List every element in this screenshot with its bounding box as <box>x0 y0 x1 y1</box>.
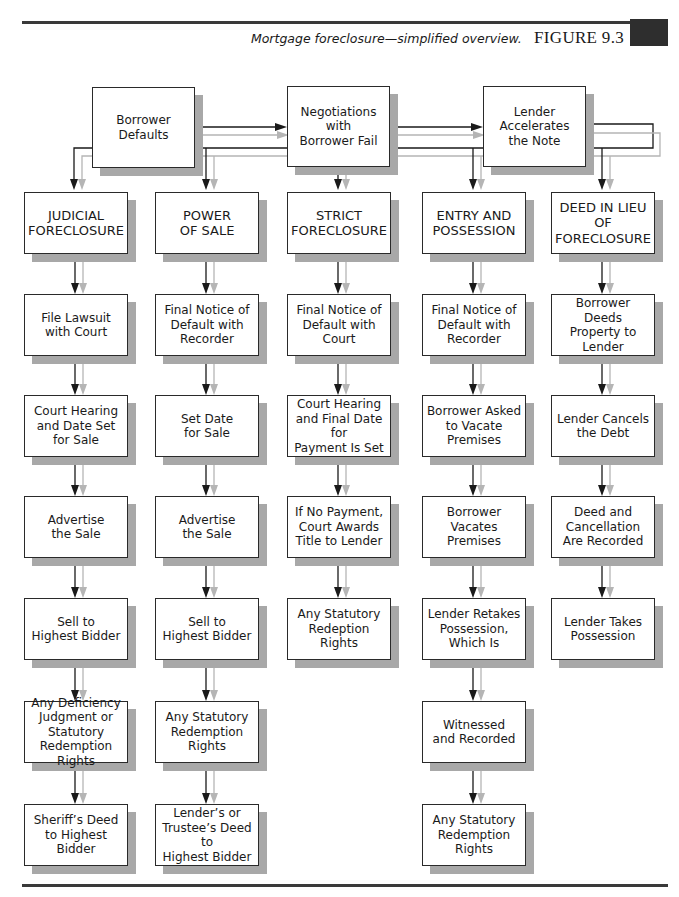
judicial-foreclosure-step-1: File Lawsuit with Court <box>24 294 128 356</box>
box-negotiations-fail-label: Negotiations with Borrower Fail <box>291 105 386 149</box>
strict-foreclosure-step-2-label: Court Hearing and Final Date for Payment… <box>291 397 387 455</box>
entry-and-possession-step-3: Borrower Vacates Premises <box>422 496 526 558</box>
heading-deed-in-lieu: DEED IN LIEU OF FORECLOSURE <box>551 192 655 254</box>
strict-foreclosure-step-1: Final Notice of Default with Court <box>287 294 391 356</box>
entry-and-possession-step-6-label: Any Statutory Redemption Rights <box>433 813 516 857</box>
judicial-foreclosure-step-4: Sell to Highest Bidder <box>24 598 128 660</box>
judicial-foreclosure-step-3: Advertise the Sale <box>24 496 128 558</box>
deed-in-lieu-step-3: Deed and Cancellation Are Recorded <box>551 496 655 558</box>
entry-and-possession-step-6: Any Statutory Redemption Rights <box>422 804 526 866</box>
entry-and-possession-step-2: Borrower Asked to Vacate Premises <box>422 395 526 457</box>
judicial-foreclosure-step-4-label: Sell to Highest Bidder <box>32 615 121 644</box>
entry-and-possession-step-1: Final Notice of Default with Recorder <box>422 294 526 356</box>
entry-and-possession-step-4-label: Lender Retakes Possession, Which Is <box>428 607 521 651</box>
power-of-sale-step-3-label: Advertise the Sale <box>179 513 236 542</box>
bottom-rule <box>22 884 668 887</box>
entry-and-possession-step-5: Witnessed and Recorded <box>422 701 526 763</box>
box-lender-accelerates: Lender Accelerates the Note <box>483 86 586 167</box>
power-of-sale-step-1-label: Final Notice of Default with Recorder <box>164 303 249 347</box>
strict-foreclosure-step-4: Any Statutory Redeption Rights <box>287 598 391 660</box>
deed-in-lieu-step-4: Lender Takes Possession <box>551 598 655 660</box>
strict-foreclosure-step-4-label: Any Statutory Redeption Rights <box>291 607 387 651</box>
box-borrower-defaults: Borrower Defaults <box>92 87 195 168</box>
judicial-foreclosure-step-3-label: Advertise the Sale <box>48 513 105 542</box>
heading-deed-in-lieu-label: DEED IN LIEU OF FORECLOSURE <box>555 200 651 247</box>
power-of-sale-step-5-label: Any Statutory Redemption Rights <box>166 710 249 754</box>
judicial-foreclosure-step-5: Any Deficiency Judgment or Statutory Red… <box>24 701 128 763</box>
strict-foreclosure-step-1-label: Final Notice of Default with Court <box>296 303 381 347</box>
strict-foreclosure-step-3-label: If No Payment, Court Awards Title to Len… <box>295 505 383 549</box>
box-lender-accelerates-label: Lender Accelerates the Note <box>500 105 570 149</box>
power-of-sale-step-6-label: Lender’s or Trustee’s Deed to Highest Bi… <box>159 806 255 864</box>
judicial-foreclosure-step-2: Court Hearing and Date Set for Sale <box>24 395 128 457</box>
power-of-sale-step-4-label: Sell to Highest Bidder <box>163 615 252 644</box>
judicial-foreclosure-step-2-label: Court Hearing and Date Set for Sale <box>34 404 118 448</box>
judicial-foreclosure-step-6-label: Sheriff’s Deed to Highest Bidder <box>34 813 119 857</box>
entry-and-possession-step-2-label: Borrower Asked to Vacate Premises <box>427 404 521 448</box>
power-of-sale-step-3: Advertise the Sale <box>155 496 259 558</box>
heading-judicial-foreclosure: JUDICIAL FORECLOSURE <box>24 192 128 254</box>
heading-entry-and-possession: ENTRY AND POSSESSION <box>422 192 526 254</box>
entry-and-possession-step-1-label: Final Notice of Default with Recorder <box>431 303 516 347</box>
heading-strict-foreclosure-label: STRICT FORECLOSURE <box>291 208 387 239</box>
deed-in-lieu-step-2: Lender Cancels the Debt <box>551 395 655 457</box>
heading-power-of-sale: POWER OF SALE <box>155 192 259 254</box>
power-of-sale-step-4: Sell to Highest Bidder <box>155 598 259 660</box>
heading-judicial-foreclosure-label: JUDICIAL FORECLOSURE <box>28 208 124 239</box>
box-negotiations-fail: Negotiations with Borrower Fail <box>287 86 390 167</box>
judicial-foreclosure-step-1-label: File Lawsuit with Court <box>41 311 111 340</box>
power-of-sale-step-1: Final Notice of Default with Recorder <box>155 294 259 356</box>
heading-power-of-sale-label: POWER OF SALE <box>180 208 235 239</box>
entry-and-possession-step-4: Lender Retakes Possession, Which Is <box>422 598 526 660</box>
power-of-sale-step-2-label: Set Date for Sale <box>181 412 233 441</box>
power-of-sale-step-5: Any Statutory Redemption Rights <box>155 701 259 763</box>
strict-foreclosure-step-3: If No Payment, Court Awards Title to Len… <box>287 496 391 558</box>
heading-strict-foreclosure: STRICT FORECLOSURE <box>287 192 391 254</box>
entry-and-possession-step-3-label: Borrower Vacates Premises <box>426 505 522 549</box>
judicial-foreclosure-step-6: Sheriff’s Deed to Highest Bidder <box>24 804 128 866</box>
deed-in-lieu-step-4-label: Lender Takes Possession <box>564 615 642 644</box>
deed-in-lieu-step-1-label: Borrower Deeds Property to Lender <box>555 296 651 354</box>
deed-in-lieu-step-3-label: Deed and Cancellation Are Recorded <box>563 505 644 549</box>
deed-in-lieu-step-1: Borrower Deeds Property to Lender <box>551 294 655 356</box>
strict-foreclosure-step-2: Court Hearing and Final Date for Payment… <box>287 395 391 457</box>
power-of-sale-step-6: Lender’s or Trustee’s Deed to Highest Bi… <box>155 804 259 866</box>
heading-entry-and-possession-label: ENTRY AND POSSESSION <box>432 208 515 239</box>
judicial-foreclosure-step-5-label: Any Deficiency Judgment or Statutory Red… <box>28 696 124 769</box>
box-borrower-defaults-label: Borrower Defaults <box>116 113 170 142</box>
entry-and-possession-step-5-label: Witnessed and Recorded <box>433 718 516 747</box>
power-of-sale-step-2: Set Date for Sale <box>155 395 259 457</box>
deed-in-lieu-step-2-label: Lender Cancels the Debt <box>557 412 649 441</box>
